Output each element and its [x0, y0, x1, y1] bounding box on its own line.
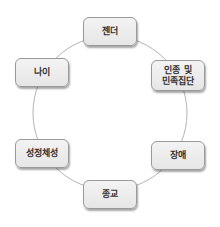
node-religion: 종교 — [83, 180, 137, 209]
node-race-ethnicity: 인종 및 민족집단 — [151, 60, 205, 91]
node-gender: 젠더 — [83, 17, 137, 46]
node-disability: 장애 — [151, 141, 205, 170]
node-sexual-identity: 성정체성 — [15, 139, 69, 168]
node-age: 나이 — [15, 58, 69, 87]
